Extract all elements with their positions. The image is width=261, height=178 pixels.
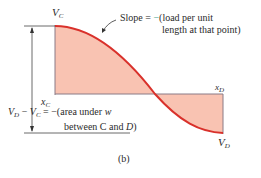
vc-label-main: V — [52, 6, 59, 18]
area-annotation: VD − VC = −(area under w between C and D… — [8, 106, 137, 133]
area-rest: = −(area under — [41, 106, 105, 117]
vc-label: VC — [52, 6, 63, 20]
area-op: − — [19, 106, 30, 117]
vd-label: VD — [218, 136, 230, 150]
area-line2c: ) — [133, 121, 136, 132]
vd-label-main: V — [218, 136, 225, 148]
slope-prefix: Slope = — [120, 12, 153, 23]
slope-leader-arrow — [103, 20, 116, 31]
area-line2a: between C and — [8, 121, 126, 132]
vd-label-sub: D — [225, 142, 230, 150]
figure-caption: (b) — [118, 153, 130, 164]
arrow-up-icon — [30, 27, 34, 33]
slope-line1: (load per unit — [159, 12, 213, 23]
slope-line2: length at that point) — [120, 24, 241, 35]
xd-label: xD — [215, 82, 224, 94]
vc-label-sub: C — [59, 12, 64, 20]
area-w: w — [105, 106, 112, 117]
slope-annotation: Slope = −(load per unit length at that p… — [120, 12, 241, 36]
xd-label-sub: D — [219, 86, 224, 94]
